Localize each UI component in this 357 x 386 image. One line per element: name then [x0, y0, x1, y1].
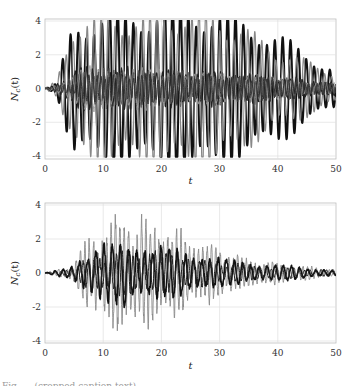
x-axis-label: t	[188, 360, 193, 371]
x-tick-label: 50	[330, 348, 342, 358]
x-tick-label: 0	[42, 348, 48, 358]
figure-caption-fragment: Fig. … (cropped caption text)	[2, 378, 357, 386]
y-tick-label: -2	[32, 302, 41, 312]
x-tick-label: 40	[272, 348, 284, 358]
x-tick-label: 30	[214, 348, 226, 358]
bottom-chart-plot: 01020304050420-2-4tNc(t)	[0, 0, 357, 386]
y-tick-label: 2	[35, 234, 41, 244]
x-tick-label: 10	[97, 348, 109, 358]
x-tick-label: 20	[156, 348, 168, 358]
y-axis-label: Nc(t)	[9, 261, 22, 287]
y-tick-label: 0	[35, 268, 41, 278]
bottom-chart: 01020304050420-2-4tNc(t)	[0, 0, 357, 386]
y-tick-label: -4	[32, 336, 41, 346]
y-tick-label: 4	[35, 200, 41, 210]
